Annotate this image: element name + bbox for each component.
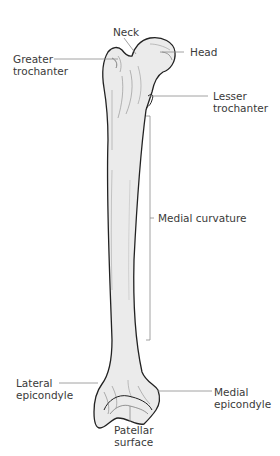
label-medial-curvature: Medial curvature xyxy=(158,212,247,224)
label-patellar-surface: Patellar surface xyxy=(114,424,153,448)
label-greater-trochanter: Greater trochanter xyxy=(13,53,68,77)
label-lesser-trochanter: Lesser trochanter xyxy=(213,90,268,114)
label-lateral-epicondyle: Lateral epicondyle xyxy=(16,377,73,401)
label-medial-epicondyle: Medial epicondyle xyxy=(214,386,271,410)
femur-diagram: Neck Head Greater trochanter Lesser troc… xyxy=(0,0,280,456)
label-head: Head xyxy=(190,46,217,58)
label-neck: Neck xyxy=(113,26,139,38)
